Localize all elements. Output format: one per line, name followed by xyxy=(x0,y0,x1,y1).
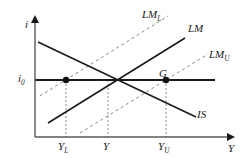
curve-label-lm-lower-subscript: L xyxy=(157,15,161,23)
tick-label-i0-subscript: 0 xyxy=(21,79,25,87)
curve-label-lm-lower-base: LM xyxy=(142,8,157,20)
point-label-g: G xyxy=(159,68,167,79)
curve-label-lm-upper: LMU xyxy=(209,49,230,63)
curve-label-is: IS xyxy=(197,109,206,120)
x-axis-label: Y xyxy=(228,143,234,154)
curve-label-lm-lower: LML xyxy=(142,9,161,23)
curve-label-lm: LM xyxy=(188,23,203,34)
curve-label-lm-upper-subscript: U xyxy=(224,55,229,63)
tick-label-i0: i0 xyxy=(18,73,25,87)
tick-label-yu: YU xyxy=(158,141,169,155)
tick-label-yl: YL xyxy=(58,141,68,155)
curve-label-lm-upper-base: LM xyxy=(209,48,224,60)
tick-label-y: Y xyxy=(103,141,109,152)
tick-label-yu-subscript: U xyxy=(164,147,169,155)
chart-canvas xyxy=(0,0,245,167)
curve-lm-lower xyxy=(40,16,168,96)
is-lm-diagram: i Y i0 LML LM LMU IS G YL Y YU xyxy=(0,0,245,167)
y-axis-label: i xyxy=(25,19,28,30)
point-yl-marker xyxy=(63,77,69,83)
curve-lm-upper xyxy=(80,54,208,133)
tick-label-yl-subscript: L xyxy=(64,147,68,155)
